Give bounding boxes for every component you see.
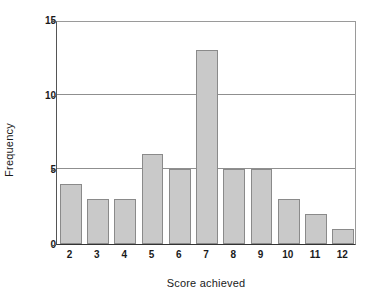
bar-chart: Frequency 051015 23456789101112 Score ac…: [0, 0, 375, 303]
x-tick-label: 4: [111, 249, 138, 261]
y-tick-label: 5: [10, 165, 56, 175]
x-tick-label: 2: [56, 249, 83, 261]
bar: [142, 154, 164, 244]
x-axis-ticks: 23456789101112: [56, 249, 356, 265]
bar: [169, 169, 191, 244]
x-tick-label: 12: [329, 249, 356, 261]
x-tick-label: 10: [274, 249, 301, 261]
x-tick-label: 6: [165, 249, 192, 261]
bars-layer: [57, 22, 355, 244]
x-tick-label: 9: [247, 249, 274, 261]
x-tick-label: 11: [301, 249, 328, 261]
bar: [196, 50, 218, 244]
bar: [87, 199, 109, 244]
bar: [251, 169, 273, 244]
x-tick-label: 8: [220, 249, 247, 261]
x-tick-label: 5: [138, 249, 165, 261]
y-tick-label: 10: [10, 91, 56, 101]
y-axis-ticks: 051015: [0, 0, 56, 303]
bar: [305, 214, 327, 244]
bar: [114, 199, 136, 244]
x-tick-label: 3: [83, 249, 110, 261]
y-tick-mark: [51, 245, 56, 246]
bar: [223, 169, 245, 244]
x-tick-label: 7: [192, 249, 219, 261]
y-tick-label: 15: [10, 16, 56, 26]
y-tick-label: 0: [10, 240, 56, 250]
x-axis-title: Score achieved: [56, 276, 356, 290]
bar: [60, 184, 82, 244]
plot-area: [56, 21, 356, 245]
bar: [332, 229, 354, 244]
bar: [278, 199, 300, 244]
